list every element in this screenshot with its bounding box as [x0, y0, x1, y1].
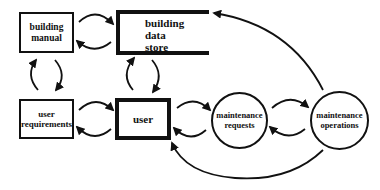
arrow-operations-to-user — [172, 143, 323, 178]
node-building-data-store: building data store — [116, 10, 209, 55]
data-store-line2: data — [145, 29, 184, 41]
arrow-store-to-manual — [77, 41, 111, 49]
arrow-user-to-requests — [177, 101, 210, 110]
maintenance-operations-line2: operations — [316, 121, 362, 131]
data-store-line3: store — [145, 41, 184, 53]
arrow-operations-to-store — [214, 13, 323, 90]
arrow-operations-to-requests — [270, 127, 305, 136]
arrow-manual-to-requirements — [55, 60, 62, 90]
node-user: user — [115, 98, 171, 140]
node-maintenance-requests: maintenance requests — [211, 92, 268, 149]
node-maintenance-operations: maintenance operations — [310, 91, 369, 150]
user-label: user — [133, 113, 153, 125]
node-user-requirements: user requirements — [19, 99, 74, 139]
arrow-store-to-user — [152, 60, 159, 92]
user-requirements-line1: user — [21, 109, 72, 119]
user-requirements-line2: requirements — [21, 119, 72, 129]
node-building-manual: building manual — [19, 12, 74, 53]
building-manual-line1: building — [30, 22, 64, 32]
building-manual-line2: manual — [30, 33, 64, 43]
arrow-user-to-requirements — [77, 127, 111, 136]
arrow-user-to-store — [127, 58, 134, 90]
arrow-manual-to-store — [79, 14, 113, 24]
arrow-requests-to-operations — [272, 100, 308, 108]
arrow-requirements-to-manual — [31, 60, 38, 90]
maintenance-requests-line2: requests — [216, 121, 262, 131]
arrow-requests-to-user — [174, 128, 206, 137]
data-store-line1: building — [145, 17, 184, 29]
arrow-requirements-to-user — [79, 102, 113, 110]
